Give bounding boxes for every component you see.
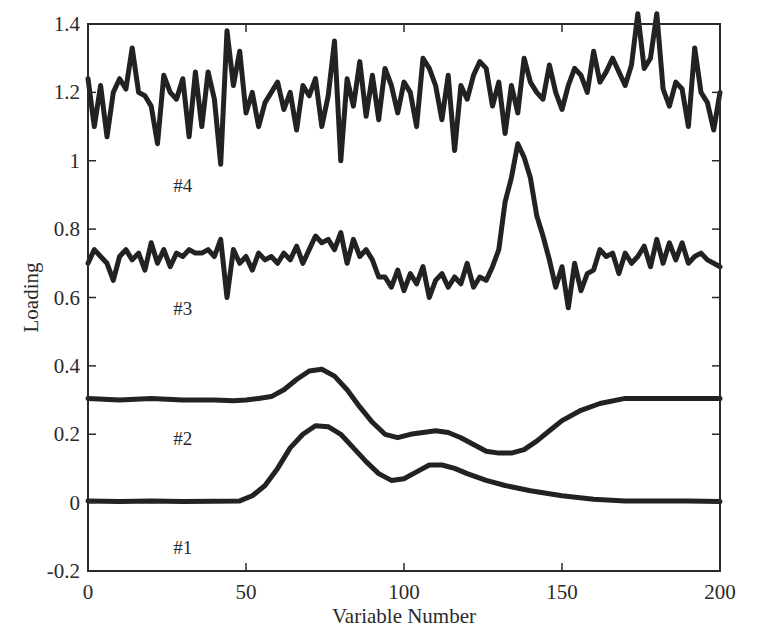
x-tick-label: 100 bbox=[388, 580, 420, 604]
x-tick-label: 50 bbox=[236, 580, 257, 604]
y-tick-label: 0.8 bbox=[54, 217, 80, 241]
y-tick-label: -0.2 bbox=[47, 559, 80, 583]
y-tick-label: 0.2 bbox=[54, 422, 80, 446]
y-tick-label: 0.4 bbox=[54, 354, 81, 378]
x-tick-label: 200 bbox=[704, 580, 736, 604]
y-tick-label: 1.4 bbox=[54, 12, 81, 36]
loading-line-chart: 050100150200 -0.200.20.40.60.811.21.4 #4… bbox=[0, 0, 758, 644]
curve-label: #1 bbox=[173, 537, 192, 558]
y-tick-label: 0.6 bbox=[54, 286, 80, 310]
curve-label: #4 bbox=[173, 175, 193, 196]
y-tick-label: 0 bbox=[70, 491, 81, 515]
y-axis-title: Loading bbox=[19, 262, 43, 332]
y-tick-label: 1.2 bbox=[54, 80, 80, 104]
x-tick-label: 150 bbox=[546, 580, 578, 604]
curve-label: #3 bbox=[173, 298, 192, 319]
x-axis-title: Variable Number bbox=[332, 604, 476, 628]
curve-component-3 bbox=[88, 144, 720, 308]
curve-component-4 bbox=[88, 14, 720, 165]
x-tick-label: 0 bbox=[83, 580, 94, 604]
y-tick-label: 1 bbox=[70, 149, 81, 173]
curve-label: #2 bbox=[173, 428, 192, 449]
